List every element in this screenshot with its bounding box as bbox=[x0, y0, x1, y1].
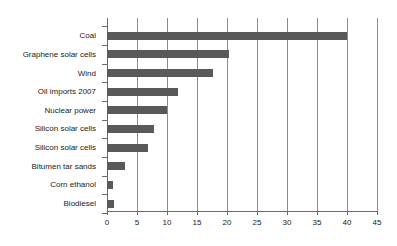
gridline-35 bbox=[317, 18, 318, 211]
x-axis-tick bbox=[257, 211, 258, 215]
gridline-20 bbox=[227, 18, 228, 211]
category-label: Corn ethanol bbox=[0, 180, 96, 189]
y-axis-tick bbox=[102, 26, 107, 27]
category-label: Bitumen tar sands bbox=[0, 162, 96, 171]
category-label: Coal bbox=[0, 31, 96, 40]
gridline-15 bbox=[197, 18, 198, 211]
bar bbox=[107, 88, 178, 96]
y-axis-tick bbox=[102, 138, 107, 139]
bar bbox=[107, 181, 113, 189]
x-axis-tick bbox=[377, 211, 378, 215]
bar-chart: 051015202530354045CoalGraphene solar cel… bbox=[0, 0, 397, 246]
bar bbox=[107, 125, 154, 133]
x-axis-tick bbox=[287, 211, 288, 215]
bar bbox=[107, 144, 148, 152]
x-axis-tick bbox=[167, 211, 168, 215]
category-label: Silicon solar cells bbox=[0, 124, 96, 133]
category-label: Silicon solar cells bbox=[0, 143, 96, 152]
x-axis-tick bbox=[227, 211, 228, 215]
x-axis-tick bbox=[137, 211, 138, 215]
bar bbox=[107, 162, 125, 170]
bar bbox=[107, 50, 229, 58]
y-axis-tick bbox=[102, 101, 107, 102]
category-label: Biodiesel bbox=[0, 199, 96, 208]
x-axis-tick bbox=[317, 211, 318, 215]
x-axis-tick bbox=[107, 211, 108, 215]
y-axis-tick bbox=[102, 120, 107, 121]
y-axis-tick bbox=[102, 176, 107, 177]
gridline-25 bbox=[257, 18, 258, 211]
x-axis-tick-label: 45 bbox=[357, 218, 397, 228]
category-label: Graphene solar cells bbox=[0, 50, 96, 59]
bar bbox=[107, 32, 347, 40]
y-axis-tick bbox=[102, 64, 107, 65]
plot-area bbox=[107, 18, 377, 211]
bar bbox=[107, 200, 114, 208]
category-label: Wind bbox=[0, 69, 96, 78]
bar bbox=[107, 69, 213, 77]
bar bbox=[107, 106, 167, 114]
y-axis-tick bbox=[102, 45, 107, 46]
x-axis-tick bbox=[347, 211, 348, 215]
gridline-45 bbox=[377, 18, 378, 211]
y-axis-tick bbox=[102, 157, 107, 158]
x-axis-line bbox=[107, 211, 378, 212]
x-axis-tick bbox=[197, 211, 198, 215]
category-label: Oil imports 2007 bbox=[0, 87, 96, 96]
category-label: Nuclear power bbox=[0, 106, 96, 115]
y-axis-tick bbox=[102, 213, 107, 214]
y-axis-tick bbox=[102, 82, 107, 83]
y-axis-tick bbox=[102, 194, 107, 195]
gridline-30 bbox=[287, 18, 288, 211]
gridline-10 bbox=[167, 18, 168, 211]
gridline-5 bbox=[137, 18, 138, 211]
gridline-40 bbox=[347, 18, 348, 211]
